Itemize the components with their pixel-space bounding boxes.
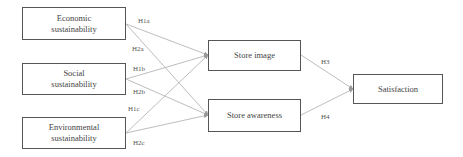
edge-label-h1a: H1a bbox=[138, 17, 150, 25]
node-store-awareness: Store awareness bbox=[208, 99, 301, 132]
edge-label-h2c: H2c bbox=[133, 139, 145, 147]
edge-h4 bbox=[301, 89, 353, 115]
node-label: Store awareness bbox=[227, 110, 282, 121]
node-environmental-sustainability: Environmentalsustainability bbox=[22, 117, 126, 149]
edge-label-h2b: H2b bbox=[133, 88, 145, 96]
node-label: sustainability bbox=[51, 24, 96, 34]
node-label: sustainability bbox=[51, 133, 96, 143]
edge-label-h1b: H1b bbox=[133, 65, 145, 73]
node-economic-sustainability: Economicsustainability bbox=[22, 7, 126, 40]
edge-label-h1c: H1c bbox=[128, 105, 140, 113]
edge-label-h3: H3 bbox=[321, 58, 330, 66]
node-label: Social bbox=[63, 68, 84, 78]
node-label: Environmental bbox=[49, 122, 100, 132]
edge-label-h2a: H2a bbox=[132, 45, 144, 53]
node-label: Satisfaction bbox=[378, 84, 418, 95]
edge-h2c bbox=[126, 115, 208, 133]
node-store-image: Store image bbox=[208, 40, 301, 71]
node-satisfaction: Satisfaction bbox=[353, 74, 443, 104]
node-social-sustainability: Socialsustainability bbox=[22, 63, 126, 95]
node-label: sustainability bbox=[51, 79, 96, 89]
node-label: Economic bbox=[57, 13, 91, 23]
edge-label-h4: H4 bbox=[321, 113, 330, 121]
node-label: Store image bbox=[234, 50, 275, 61]
